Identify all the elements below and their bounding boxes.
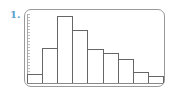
histogram-bar (42, 48, 58, 83)
histogram-plot-area (27, 14, 163, 83)
histogram-bar (27, 74, 43, 83)
histogram-bar (72, 30, 88, 83)
histogram-bar (87, 49, 103, 83)
histogram-bar (103, 53, 119, 83)
histogram-bar (118, 59, 134, 83)
histogram-bar (133, 72, 149, 83)
x-axis-baseline (27, 83, 163, 84)
problem-number: 1. (10, 9, 20, 20)
histogram-bar (148, 76, 164, 83)
histogram-bar (57, 16, 73, 83)
